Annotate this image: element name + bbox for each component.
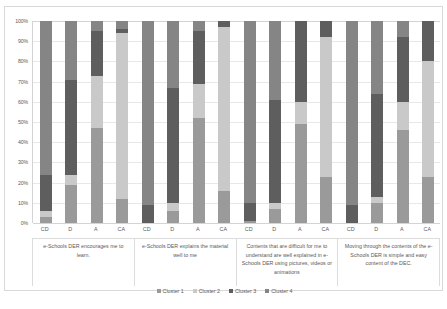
bar-segment-cluster-2[interactable]	[320, 37, 332, 176]
bar-segment-cluster-1[interactable]	[91, 128, 103, 223]
legend-label: Cluster 4	[271, 288, 292, 294]
bar-segment-cluster-1[interactable]	[397, 130, 409, 223]
y-axis-tick-label: 100%	[15, 18, 28, 24]
bar-segment-cluster-1[interactable]	[422, 177, 434, 223]
stacked-bar[interactable]	[269, 21, 281, 223]
bar-segment-cluster-1[interactable]	[65, 185, 77, 223]
x-axis-tick-label: CA	[414, 226, 440, 232]
legend-swatch-icon	[265, 289, 269, 293]
legend-label: Cluster 3	[235, 288, 256, 294]
bar-segment-cluster-3[interactable]	[167, 88, 179, 203]
bar-segment-cluster-1[interactable]	[218, 191, 230, 223]
stacked-bar[interactable]	[371, 21, 383, 223]
legend-item-cluster-1[interactable]: Cluster 1	[157, 288, 184, 294]
bar-segment-cluster-1[interactable]	[40, 217, 52, 223]
bar-segment-cluster-1[interactable]	[116, 199, 128, 223]
stacked-bar[interactable]	[295, 21, 307, 223]
stacked-bar[interactable]	[116, 21, 128, 223]
stacked-bar[interactable]	[218, 21, 230, 223]
bar-segment-cluster-4[interactable]	[167, 21, 179, 88]
bar-segment-cluster-2[interactable]	[218, 27, 230, 191]
x-axis-group-label: Moving through the contents of the e-Sch…	[337, 238, 440, 286]
bar-segment-cluster-4[interactable]	[371, 21, 383, 94]
x-axis-tick-label: CA	[108, 226, 134, 232]
bar-segment-cluster-2[interactable]	[91, 76, 103, 129]
bar-segment-cluster-3[interactable]	[422, 21, 434, 61]
stacked-bar[interactable]	[142, 21, 154, 223]
x-axis-tick-label: CD	[338, 226, 364, 232]
bar-segment-cluster-1[interactable]	[193, 118, 205, 223]
bar-segment-cluster-4[interactable]	[244, 21, 256, 203]
stacked-bar[interactable]	[91, 21, 103, 223]
bar-segment-cluster-3[interactable]	[346, 205, 358, 223]
x-axis-tick-label: CA	[312, 226, 338, 232]
bar-segment-cluster-2[interactable]	[422, 61, 434, 176]
bar-segment-cluster-1[interactable]	[320, 177, 332, 223]
bar-segment-cluster-3[interactable]	[320, 21, 332, 37]
bar-segment-cluster-2[interactable]	[116, 33, 128, 199]
bar-segment-cluster-1[interactable]	[244, 221, 256, 223]
bar-segment-cluster-4[interactable]	[346, 21, 358, 205]
bar-segment-cluster-4[interactable]	[269, 21, 281, 100]
bar-segment-cluster-2[interactable]	[193, 84, 205, 118]
y-axis-tick-label: 20%	[18, 180, 28, 186]
figure-container: 0%10%20%30%40%50%60%70%80%90%100% CDDACA…	[0, 0, 447, 309]
y-axis-tick-label: 40%	[18, 139, 28, 145]
bar-segment-cluster-4[interactable]	[397, 21, 409, 37]
y-axis-tick-label: 70%	[18, 79, 28, 85]
bar-segment-cluster-3[interactable]	[371, 94, 383, 197]
stacked-bar[interactable]	[244, 21, 256, 223]
stacked-bar[interactable]	[422, 21, 434, 223]
bar-segment-cluster-4[interactable]	[40, 21, 52, 175]
stacked-bar[interactable]	[346, 21, 358, 223]
x-axis-tick-labels: CDDACACDDACACDDACACDDACA	[32, 224, 440, 238]
bar-segment-cluster-4[interactable]	[116, 21, 128, 29]
x-axis-tick-label: A	[389, 226, 415, 232]
bar-segment-cluster-3[interactable]	[295, 21, 307, 102]
legend-item-cluster-3[interactable]: Cluster 3	[229, 288, 256, 294]
x-axis-group-label: e-Schools DER encourages me to learn.	[32, 238, 134, 286]
bar-segment-cluster-1[interactable]	[167, 211, 179, 223]
bar-segment-cluster-3[interactable]	[142, 205, 154, 223]
bar-segment-cluster-3[interactable]	[65, 80, 77, 175]
legend-swatch-icon	[229, 289, 233, 293]
stacked-bar[interactable]	[397, 21, 409, 223]
bar-segment-cluster-3[interactable]	[397, 37, 409, 102]
bar-segment-cluster-4[interactable]	[142, 21, 154, 205]
y-axis: 0%10%20%30%40%50%60%70%80%90%100%	[5, 21, 31, 223]
bar-segment-cluster-3[interactable]	[269, 100, 281, 203]
y-axis-tick-label: 30%	[18, 159, 28, 165]
bar-segment-cluster-1[interactable]	[269, 209, 281, 223]
bar-segment-cluster-2[interactable]	[167, 203, 179, 211]
bar-segment-cluster-3[interactable]	[244, 203, 256, 221]
bar-segment-cluster-1[interactable]	[295, 124, 307, 223]
stacked-bar[interactable]	[40, 21, 52, 223]
bar-segment-cluster-4[interactable]	[91, 21, 103, 31]
legend-item-cluster-2[interactable]: Cluster 2	[193, 288, 220, 294]
legend-item-cluster-4[interactable]: Cluster 4	[265, 288, 292, 294]
bar-segment-cluster-3[interactable]	[91, 31, 103, 75]
chart-frame: 0%10%20%30%40%50%60%70%80%90%100% CDDACA…	[4, 6, 443, 291]
bar-series-container	[33, 21, 440, 223]
stacked-bar[interactable]	[193, 21, 205, 223]
bar-segment-cluster-1[interactable]	[371, 203, 383, 223]
bar-segment-cluster-2[interactable]	[397, 102, 409, 130]
bar-segment-cluster-2[interactable]	[295, 102, 307, 124]
y-axis-tick-label: 10%	[18, 200, 28, 206]
plot-area	[32, 21, 440, 223]
legend-label: Cluster 1	[163, 288, 184, 294]
bar-segment-cluster-4[interactable]	[193, 21, 205, 31]
chart-legend: Cluster 1Cluster 2Cluster 3Cluster 4	[5, 286, 444, 296]
x-axis-tick-label: CD	[134, 226, 160, 232]
stacked-bar[interactable]	[167, 21, 179, 223]
legend-label: Cluster 2	[199, 288, 220, 294]
stacked-bar[interactable]	[65, 21, 77, 223]
x-axis-group-labels: e-Schools DER encourages me to learn.e-S…	[32, 238, 440, 286]
bar-segment-cluster-3[interactable]	[193, 31, 205, 84]
bar-segment-cluster-3[interactable]	[40, 175, 52, 211]
legend-swatch-icon	[193, 289, 197, 293]
bar-segment-cluster-4[interactable]	[65, 21, 77, 80]
bar-segment-cluster-2[interactable]	[65, 175, 77, 185]
stacked-bar[interactable]	[320, 21, 332, 223]
x-axis-tick-label: D	[363, 226, 389, 232]
